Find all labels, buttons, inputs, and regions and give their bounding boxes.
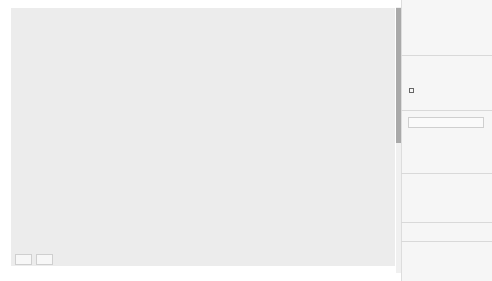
sidebar-header <box>401 246 492 264</box>
octave-select[interactable] <box>401 227 492 239</box>
pause-button[interactable] <box>36 254 53 265</box>
tracking-section <box>401 160 492 168</box>
divider <box>401 55 492 56</box>
divider <box>401 173 492 174</box>
app-viewport <box>0 0 492 281</box>
play-button[interactable] <box>15 254 32 265</box>
tracking-settings-button[interactable] <box>408 117 484 128</box>
keyboard-canvas <box>11 8 395 266</box>
sidebar <box>401 0 492 281</box>
divider <box>401 241 492 242</box>
divider <box>401 110 492 111</box>
learn-more-section <box>401 78 492 105</box>
midi-section <box>401 209 492 217</box>
divider <box>401 222 492 223</box>
about-link[interactable] <box>409 88 484 93</box>
external-link-icon <box>409 88 414 93</box>
pitch-wave <box>11 8 395 266</box>
shortcuts-section <box>401 37 492 43</box>
scrollbar-thumb[interactable] <box>396 8 401 143</box>
